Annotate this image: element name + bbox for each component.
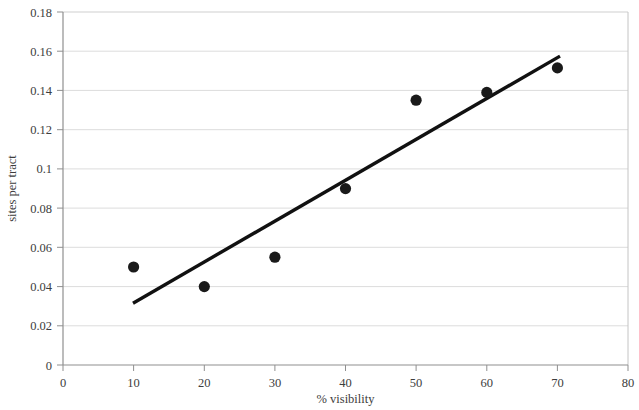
y-tick-label: 0.14 [30,84,53,98]
x-tick-label: 60 [481,376,494,390]
x-tick-label: 30 [269,376,282,390]
x-tick-label: 50 [410,376,423,390]
data-point [128,261,139,272]
data-point [199,281,210,292]
y-tick-label: 0.06 [30,241,52,255]
x-tick-label: 20 [198,376,211,390]
y-axis-tick-labels: 0.18 0.16 0.14 0.12 0.1 0.08 0.06 0.04 0… [30,6,53,373]
x-tick-label: 70 [551,376,564,390]
y-axis-ticks [57,12,63,365]
y-tick-label: 0.08 [30,202,52,216]
y-axis-title: sites per tract [5,155,19,222]
y-tick-label: 0.18 [30,6,52,20]
scatter-chart: 0.18 0.16 0.14 0.12 0.1 0.08 0.06 0.04 0… [0,0,639,410]
x-axis-tick-labels: 0 10 20 30 40 50 60 70 80 [60,376,634,390]
data-point [411,95,422,106]
y-tick-label: 0.1 [36,162,52,176]
data-point [552,62,563,73]
y-tick-label: 0.04 [30,280,53,294]
x-tick-label: 80 [622,376,635,390]
x-tick-label: 0 [60,376,66,390]
chart-canvas: 0.18 0.16 0.14 0.12 0.1 0.08 0.06 0.04 0… [0,0,639,410]
data-point [481,87,492,98]
y-tick-label: 0 [46,359,52,373]
y-tick-label: 0.16 [30,45,52,59]
y-tick-label: 0.12 [30,123,52,137]
x-tick-label: 40 [339,376,352,390]
x-axis-ticks [63,365,628,371]
x-axis-title: % visibility [317,392,376,406]
x-tick-label: 10 [127,376,140,390]
y-tick-label: 0.02 [30,319,52,333]
data-point [340,183,351,194]
data-point [269,252,280,263]
